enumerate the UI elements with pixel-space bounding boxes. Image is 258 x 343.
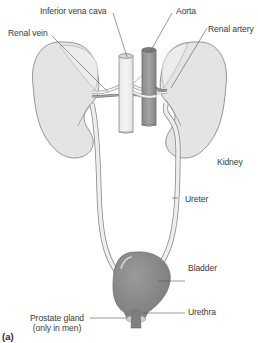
urethra	[131, 310, 141, 328]
label-ureter: Ureter	[185, 194, 208, 204]
label-aorta: Aorta	[176, 6, 196, 16]
label-bladder: Bladder	[188, 263, 217, 273]
inferior-vena-cava	[119, 54, 133, 134]
left-kidney	[32, 42, 98, 158]
label-urethra: Urethra	[188, 307, 216, 317]
label-renal-artery: Renal artery	[208, 24, 254, 34]
figure-caption: (a)	[2, 331, 14, 342]
label-prostate-gland-line2: (only in men)	[22, 323, 92, 333]
label-kidney: Kidney	[217, 157, 243, 167]
label-prostate-gland-line1: Prostate gland	[22, 313, 92, 323]
leader-line-vena-cava	[113, 13, 127, 57]
bladder	[113, 252, 170, 320]
left-ureter	[92, 104, 117, 272]
right-kidney	[160, 42, 226, 158]
label-inferior-vena-cava: Inferior vena cava	[40, 6, 107, 16]
label-renal-vein: Renal vein	[8, 28, 48, 38]
leader-line-aorta	[150, 13, 172, 52]
urinary-system-diagram: Inferior vena cava Aorta Renal vein Rena…	[0, 0, 258, 343]
aorta	[142, 48, 156, 127]
label-prostate-gland: Prostate gland (only in men)	[22, 313, 92, 333]
urinary-system-illustration	[0, 0, 258, 343]
right-ureter	[153, 104, 178, 272]
